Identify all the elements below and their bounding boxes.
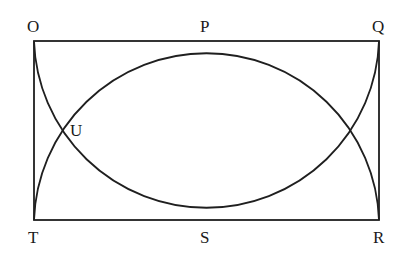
diagram-canvas: O P Q T S R U [0,0,401,258]
arc-o-s-q [34,41,379,208]
rectangle-oqrt [34,41,379,220]
label-u: U [70,121,82,140]
label-p: P [200,17,209,36]
arc-t-p-r [34,53,379,220]
label-q: Q [372,17,384,36]
label-t: T [28,228,39,247]
geometry-figure: O P Q T S R U [0,0,401,258]
label-s: S [200,228,209,247]
label-o: O [27,17,39,36]
label-r: R [373,228,385,247]
